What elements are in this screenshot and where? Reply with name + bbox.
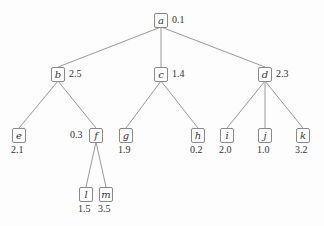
- node-value-a: 0.1: [172, 14, 185, 26]
- node-k: k: [296, 128, 310, 143]
- node-h: h: [191, 128, 205, 143]
- node-value-k: 3.2: [295, 144, 308, 156]
- node-value-f: 0.3: [70, 129, 83, 141]
- node-d: d: [258, 67, 272, 82]
- node-i: i: [220, 128, 234, 143]
- node-value-g: 1.9: [118, 144, 131, 156]
- node-f: f: [89, 128, 103, 143]
- node-b: b: [51, 67, 65, 82]
- edge-b-e: [19, 81, 58, 128]
- node-value-l: 1.5: [78, 203, 91, 215]
- node-value-e: 2.1: [11, 144, 24, 156]
- edge-c-g: [126, 81, 161, 128]
- node-a: a: [154, 13, 168, 28]
- node-e: e: [12, 128, 26, 143]
- node-m: m: [99, 187, 113, 202]
- node-value-b: 2.5: [69, 68, 82, 80]
- edge-d-i: [227, 81, 265, 128]
- node-j: j: [258, 128, 272, 143]
- node-value-i: 2.0: [219, 144, 232, 156]
- tree-diagram: a0.1b2.5c1.4d2.3e2.1f0.3g1.9h0.2i2.0j1.0…: [0, 0, 324, 226]
- node-value-m: 3.5: [98, 203, 111, 215]
- edge-a-d: [161, 27, 265, 67]
- node-l: l: [79, 187, 93, 202]
- edge-f-l: [86, 142, 96, 187]
- edge-d-k: [265, 81, 303, 128]
- node-value-h: 0.2: [190, 144, 203, 156]
- tree-edges: [0, 0, 324, 226]
- node-value-c: 1.4: [172, 68, 185, 80]
- edge-f-m: [96, 142, 106, 187]
- edge-c-h: [161, 81, 198, 128]
- node-value-d: 2.3: [276, 68, 289, 80]
- edge-b-f: [58, 81, 96, 128]
- node-value-j: 1.0: [257, 144, 270, 156]
- node-c: c: [154, 67, 168, 82]
- node-g: g: [119, 128, 133, 143]
- edge-a-b: [58, 27, 161, 67]
